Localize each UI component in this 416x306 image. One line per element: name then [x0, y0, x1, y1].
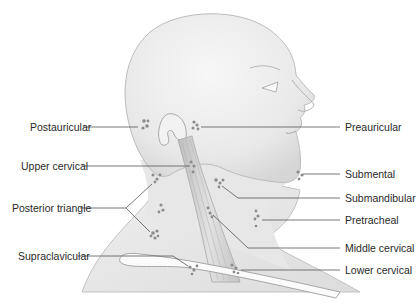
lymph-node-diagram: Postauricular Upper cervical Posterior t…	[0, 0, 416, 306]
label-lower-cervical: Lower cervical	[345, 264, 412, 276]
label-submandibular: Submandibular	[345, 192, 416, 204]
label-middle-cervical: Middle cervical	[345, 242, 414, 254]
head-shape	[125, 14, 314, 183]
label-posterior-triangle: Posterior triangle	[12, 202, 91, 214]
label-postauricular: Postauricular	[30, 121, 91, 133]
label-preauricular: Preauricular	[345, 121, 402, 133]
label-pretracheal: Pretracheal	[345, 214, 399, 226]
label-supraclavicular: Supraclavicular	[18, 250, 90, 262]
label-upper-cervical: Upper cervical	[21, 160, 88, 172]
label-submental: Submental	[345, 168, 395, 180]
